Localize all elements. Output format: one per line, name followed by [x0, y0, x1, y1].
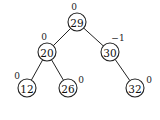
balance-factor-label: 0 — [14, 71, 20, 81]
balance-factor-label: 0 — [71, 2, 77, 12]
balance-factor-label: 0 — [146, 75, 152, 85]
balance-factor-label: 0 — [41, 32, 47, 42]
balance-factors: 00−1000 — [14, 2, 152, 85]
tree-node: 30 — [101, 43, 119, 61]
node-value: 26 — [61, 83, 75, 95]
node-value: 32 — [128, 83, 141, 95]
tree-edge — [84, 28, 104, 46]
tree-edge — [115, 59, 130, 80]
avl-tree-diagram: 292030122632 00−1000 — [0, 0, 160, 120]
tree-node: 12 — [18, 79, 36, 97]
balance-factor-label: 0 — [78, 75, 84, 85]
node-value: 20 — [40, 47, 53, 59]
tree-node: 29 — [68, 13, 86, 31]
tree-node: 32 — [126, 79, 144, 97]
balance-factor-label: −1 — [111, 33, 124, 43]
tree-edge — [52, 60, 64, 80]
tree-node: 20 — [38, 43, 56, 61]
node-value: 30 — [103, 47, 116, 59]
tree-edge — [53, 28, 70, 45]
node-value: 29 — [70, 17, 83, 29]
tree-edge — [31, 60, 42, 80]
tree-node: 26 — [59, 79, 77, 97]
node-value: 12 — [20, 83, 33, 95]
